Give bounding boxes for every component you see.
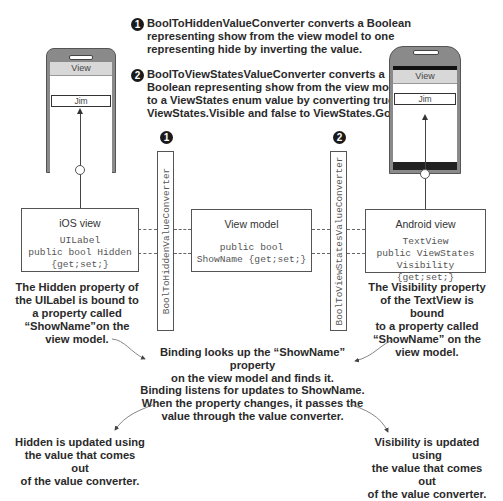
arrow-listen-to-visibility-icon [350,404,388,432]
arrow-android-to-lookup-icon [355,339,395,361]
arrow-ios-to-lookup-icon [112,339,145,359]
caption-line: of the value converter. [362,488,492,501]
arrow-listen-to-hidden-icon [115,404,155,430]
